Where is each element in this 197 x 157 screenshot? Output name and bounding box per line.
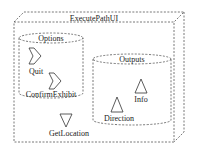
triangle-down-icon <box>60 114 72 127</box>
send-signal-icon <box>49 73 61 89</box>
quit-label: Quit <box>29 67 44 76</box>
node-side-face <box>174 12 184 142</box>
triangle-up-icon <box>135 79 147 93</box>
outputs-label: Outputs <box>119 55 144 64</box>
confirm-exhibit-label: ConfirmExhibit <box>26 90 77 99</box>
direction-label: Direction <box>104 114 134 123</box>
send-signal-icon <box>29 48 41 64</box>
triangle-up-icon <box>111 97 123 112</box>
options-label: Options <box>38 34 63 43</box>
execute-path-ui-diagram: ExecutePathUI Options Quit ConfirmExhibi… <box>0 0 197 157</box>
get-location-label: GetLocation <box>49 129 89 138</box>
info-label: Info <box>134 95 147 104</box>
node-title: ExecutePathUI <box>70 14 119 23</box>
